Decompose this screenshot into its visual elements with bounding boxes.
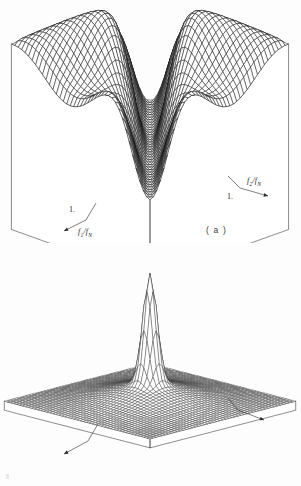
axis-tick-f1-a: 1.: [69, 205, 75, 214]
figure-page: f2/fN 1. f1/fN 1. ( a ) f2/fN 1. f1/fN 1…: [0, 0, 301, 486]
surface-mesh-b: [0, 243, 301, 486]
panel-caption-a: ( a ): [206, 225, 227, 235]
scan-artifact-speck: [6, 474, 9, 479]
axis-tick-f2-a: 1.: [227, 192, 233, 201]
axis-label-f2-a: f2/fN: [247, 176, 261, 187]
surface-mesh-a: [0, 0, 301, 243]
surface-plot-panel-a: f2/fN 1. f1/fN 1. ( a ): [0, 0, 301, 243]
axis-label-f1-a: f1/fN: [78, 227, 92, 238]
surface-plot-panel-b: f2/fN 1. f1/fN 1. ( b ): [0, 243, 301, 486]
